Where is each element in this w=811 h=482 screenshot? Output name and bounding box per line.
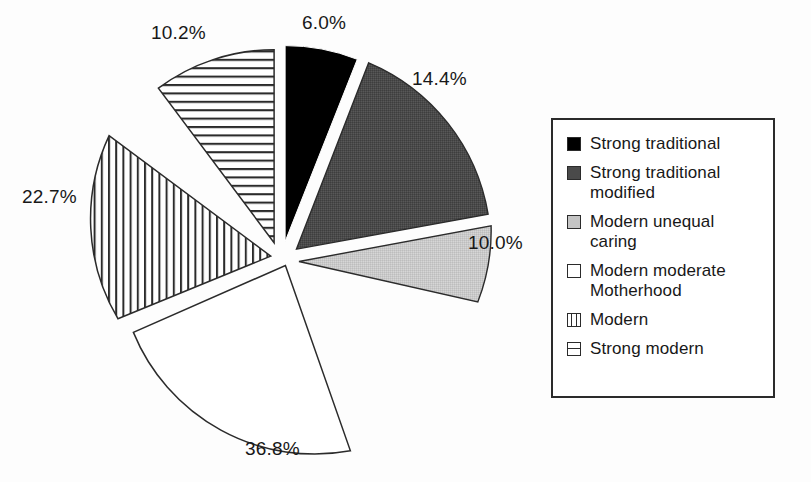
pie-chart: 6.0% 14.4% 10.0% 36.8% 22.7% 10.2% (0, 0, 545, 482)
dark-gray-swatch-icon (567, 166, 581, 180)
legend-item-modern[interactable]: Modern (567, 310, 765, 330)
pie-label-strong-modern: 10.2% (151, 22, 206, 44)
legend-label-strong-modern: Strong modern (590, 339, 704, 359)
pie-label-modern-unequal-caring: 10.0% (468, 232, 523, 254)
legend-items-list: Strong traditional Strong traditional mo… (567, 134, 765, 368)
pie-label-modern-moderate-motherhood: 36.8% (245, 438, 300, 460)
solid-black-swatch-icon (567, 137, 581, 151)
light-gray-swatch-icon (567, 215, 581, 229)
legend-label-modern: Modern (590, 310, 648, 330)
legend-item-strong-traditional[interactable]: Strong traditional (567, 134, 765, 154)
vertical-stripes-swatch-icon (567, 313, 581, 327)
legend-item-modern-unequal-caring[interactable]: Modern unequal caring (567, 212, 765, 252)
legend-label-strong-traditional-modified: Strong traditional modified (590, 163, 765, 203)
legend-label-modern-unequal-caring: Modern unequal caring (590, 212, 765, 252)
pie-label-strong-traditional-modified: 14.4% (412, 68, 467, 90)
legend-item-strong-traditional-modified[interactable]: Strong traditional modified (567, 163, 765, 203)
pie-label-strong-traditional: 6.0% (302, 12, 346, 34)
legend-item-strong-modern[interactable]: Strong modern (567, 339, 765, 359)
horizontal-stripes-swatch-icon (567, 342, 581, 356)
legend-box: Strong traditional Strong traditional mo… (551, 118, 775, 398)
chart-root: 6.0% 14.4% 10.0% 36.8% 22.7% 10.2% Stron… (0, 0, 811, 482)
legend-item-modern-moderate-motherhood[interactable]: Modern moderate Motherhood (567, 261, 765, 301)
pie-label-modern: 22.7% (22, 186, 77, 208)
legend-label-strong-traditional: Strong traditional (590, 134, 720, 154)
white-swatch-icon (567, 264, 581, 278)
legend-label-modern-moderate-motherhood: Modern moderate Motherhood (590, 261, 765, 301)
